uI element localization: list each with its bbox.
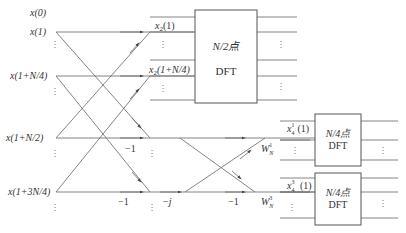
- stage1-lines: [56, 32, 320, 192]
- input-label-x1: x(1): [30, 27, 46, 37]
- n4-dft-label-1: N/4点 DFT: [315, 128, 361, 151]
- x2-1-n4-label: x2(1+N/4): [149, 65, 190, 77]
- twiddle-wn3: W3N: [261, 197, 275, 208]
- ellipsis: ···: [381, 199, 385, 208]
- ellipsis: ···: [279, 82, 283, 91]
- multiplier-minus-j: −j: [162, 197, 172, 207]
- multiplier-minus1-a: −1: [125, 144, 136, 154]
- ellipsis: ···: [381, 146, 385, 155]
- x4-3-label: x34 (1): [287, 181, 312, 192]
- ellipsis: ···: [161, 84, 165, 93]
- ellipsis: ···: [53, 87, 57, 96]
- ellipsis: ···: [53, 203, 57, 212]
- twiddle-wn1: W1N: [261, 144, 275, 155]
- ellipsis: ···: [293, 146, 297, 155]
- n2-block-output-lines: [257, 17, 297, 100]
- input-label-x1-n2: x(1+N/2): [6, 133, 43, 143]
- multiplier-minus1-c: −1: [228, 197, 239, 207]
- ellipsis: ···: [150, 203, 154, 212]
- x4-1-label: x14(1): [287, 124, 309, 135]
- x2-1-label: x2(1): [155, 21, 175, 33]
- input-label-x0: x(0): [30, 8, 46, 18]
- input-label-x1-3n4: x(1+3N/4): [8, 187, 50, 197]
- ellipsis: ···: [161, 40, 165, 49]
- input-label-x1-n4: x(1+N/4): [10, 71, 47, 81]
- n2-dft-label: N/2点 DFT: [195, 40, 257, 77]
- ellipsis: ···: [279, 40, 283, 49]
- ellipsis: ···: [53, 149, 57, 158]
- n4-dft-label-2: N/4点 DFT: [315, 187, 361, 210]
- ellipsis: ···: [53, 40, 57, 49]
- ellipsis: ···: [150, 149, 154, 158]
- ellipsis: ···: [290, 203, 294, 212]
- multiplier-minus1-b: −1: [118, 197, 129, 207]
